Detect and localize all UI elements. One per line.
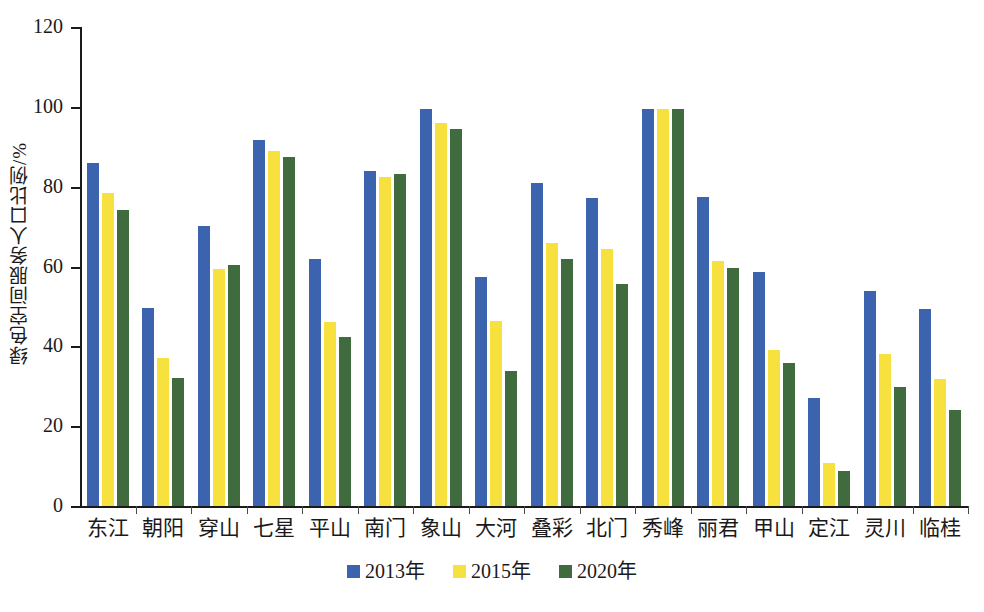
bar-临桂-2013年[interactable] bbox=[919, 309, 931, 506]
x-axis-label-灵川: 灵川 bbox=[864, 515, 906, 541]
y-axis-tick: 40 bbox=[71, 346, 80, 348]
bar-group bbox=[87, 27, 129, 506]
bar-chart: 绿色空间服务人口比例/% 020406080100120 东江朝阳穿山七星平山南… bbox=[0, 0, 984, 612]
x-axis-tick bbox=[469, 506, 470, 514]
chart-legend: 2013年2015年2020年 bbox=[0, 560, 984, 582]
y-axis-tick: 0 bbox=[71, 506, 80, 508]
y-axis-tick-label: 60 bbox=[17, 255, 63, 277]
bar-group bbox=[753, 27, 795, 506]
bar-南门-2013年[interactable] bbox=[364, 171, 376, 506]
bar-叠彩-2015年[interactable] bbox=[546, 243, 558, 506]
y-axis-tick-label: 80 bbox=[17, 175, 63, 197]
y-axis-tick: 60 bbox=[71, 267, 80, 269]
legend-item-2015年[interactable]: 2015年 bbox=[453, 560, 531, 582]
bar-group bbox=[420, 27, 462, 506]
bar-东江-2015年[interactable] bbox=[102, 193, 114, 506]
x-axis-tick bbox=[191, 506, 192, 514]
bar-象山-2013年[interactable] bbox=[420, 109, 432, 506]
bar-灵川-2020年[interactable] bbox=[894, 387, 906, 506]
x-axis-tick bbox=[247, 506, 248, 514]
bar-秀峰-2015年[interactable] bbox=[657, 109, 669, 506]
x-axis-tick bbox=[913, 506, 914, 514]
bar-朝阳-2013年[interactable] bbox=[142, 308, 154, 506]
y-axis-tick-label: 120 bbox=[17, 15, 63, 37]
bar-甲山-2020年[interactable] bbox=[783, 363, 795, 506]
legend-swatch-icon bbox=[347, 565, 360, 578]
bar-定江-2020年[interactable] bbox=[838, 471, 850, 506]
bar-临桂-2015年[interactable] bbox=[934, 379, 946, 506]
bar-七星-2020年[interactable] bbox=[283, 157, 295, 506]
x-axis-label-七星: 七星 bbox=[253, 515, 295, 541]
bar-平山-2020年[interactable] bbox=[339, 337, 351, 506]
bar-秀峰-2013年[interactable] bbox=[642, 109, 654, 506]
bar-group bbox=[364, 27, 406, 506]
bar-叠彩-2020年[interactable] bbox=[561, 259, 573, 506]
y-axis-tick: 100 bbox=[71, 107, 80, 109]
legend-swatch-icon bbox=[559, 565, 572, 578]
y-axis-tick-label: 0 bbox=[17, 494, 63, 516]
y-axis-line bbox=[80, 27, 82, 508]
bar-北门-2015年[interactable] bbox=[601, 249, 613, 506]
x-axis-label-甲山: 甲山 bbox=[753, 515, 795, 541]
x-axis-tick bbox=[302, 506, 303, 514]
bar-穿山-2020年[interactable] bbox=[228, 265, 240, 506]
bar-七星-2015年[interactable] bbox=[268, 151, 280, 506]
bar-灵川-2015年[interactable] bbox=[879, 354, 891, 506]
bar-叠彩-2013年[interactable] bbox=[531, 183, 543, 506]
bar-七星-2013年[interactable] bbox=[253, 140, 265, 506]
bar-定江-2013年[interactable] bbox=[808, 398, 820, 506]
bar-象山-2015年[interactable] bbox=[435, 123, 447, 506]
x-axis-tick bbox=[635, 506, 636, 514]
bar-朝阳-2015年[interactable] bbox=[157, 358, 169, 506]
bar-丽君-2013年[interactable] bbox=[697, 197, 709, 506]
bar-北门-2020年[interactable] bbox=[616, 284, 628, 506]
x-axis-tick bbox=[968, 506, 969, 514]
bar-灵川-2013年[interactable] bbox=[864, 291, 876, 506]
bar-平山-2015年[interactable] bbox=[324, 322, 336, 506]
x-axis-label-平山: 平山 bbox=[309, 515, 351, 541]
x-axis-tick bbox=[413, 506, 414, 514]
bar-group bbox=[198, 27, 240, 506]
bar-甲山-2015年[interactable] bbox=[768, 350, 780, 506]
bar-甲山-2013年[interactable] bbox=[753, 272, 765, 506]
bar-朝阳-2020年[interactable] bbox=[172, 378, 184, 506]
bar-大河-2020年[interactable] bbox=[505, 371, 517, 506]
bar-group bbox=[642, 27, 684, 506]
bar-穿山-2015年[interactable] bbox=[213, 269, 225, 506]
bar-group bbox=[142, 27, 184, 506]
y-axis-tick: 20 bbox=[71, 426, 80, 428]
legend-item-2020年[interactable]: 2020年 bbox=[559, 560, 637, 582]
bar-秀峰-2020年[interactable] bbox=[672, 109, 684, 506]
x-axis-tick bbox=[691, 506, 692, 514]
x-axis-label-秀峰: 秀峰 bbox=[642, 515, 684, 541]
legend-label: 2013年 bbox=[365, 560, 425, 582]
bar-南门-2015年[interactable] bbox=[379, 177, 391, 506]
x-axis-tick bbox=[857, 506, 858, 514]
bar-group bbox=[475, 27, 517, 506]
x-axis-tick bbox=[358, 506, 359, 514]
bar-丽君-2015年[interactable] bbox=[712, 261, 724, 506]
bar-丽君-2020年[interactable] bbox=[727, 268, 739, 506]
x-axis-label-丽君: 丽君 bbox=[697, 515, 739, 541]
bar-南门-2020年[interactable] bbox=[394, 174, 406, 507]
bar-北门-2013年[interactable] bbox=[586, 198, 598, 506]
x-axis-label-北门: 北门 bbox=[586, 515, 628, 541]
bar-临桂-2020年[interactable] bbox=[949, 410, 961, 506]
bar-穿山-2013年[interactable] bbox=[198, 226, 210, 506]
x-axis-label-大河: 大河 bbox=[475, 515, 517, 541]
bar-大河-2015年[interactable] bbox=[490, 321, 502, 506]
bar-东江-2020年[interactable] bbox=[117, 210, 129, 506]
y-axis-tick: 80 bbox=[71, 187, 80, 189]
bar-东江-2013年[interactable] bbox=[87, 163, 99, 506]
plot-area: 020406080100120 东江朝阳穿山七星平山南门象山大河叠彩北门秀峰丽君… bbox=[80, 27, 968, 507]
bar-group bbox=[697, 27, 739, 506]
legend-label: 2015年 bbox=[471, 560, 531, 582]
bar-象山-2020年[interactable] bbox=[450, 129, 462, 506]
bar-定江-2015年[interactable] bbox=[823, 463, 835, 506]
x-axis-tick bbox=[802, 506, 803, 514]
y-axis-tick: 120 bbox=[71, 27, 80, 29]
legend-item-2013年[interactable]: 2013年 bbox=[347, 560, 425, 582]
x-axis-tick bbox=[746, 506, 747, 514]
bar-平山-2013年[interactable] bbox=[309, 259, 321, 506]
bar-大河-2013年[interactable] bbox=[475, 277, 487, 506]
